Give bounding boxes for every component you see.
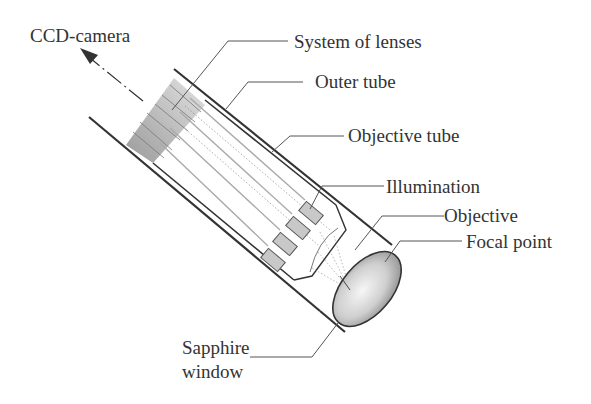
label-sapphire-window-line2: window [182,362,243,381]
probe-drawing [0,0,591,404]
label-illumination: Illumination [386,177,480,196]
label-sapphire-window-line1: Sapphire [182,338,250,357]
label-objective-tube: Objective tube [348,126,459,145]
label-outer-tube: Outer tube [315,72,396,91]
label-system-of-lenses: System of lenses [294,32,422,51]
diagram-canvas: CCD-camera System of lenses Outer tube O… [0,0,591,404]
illumination-elements [261,201,324,271]
label-focal-point: Focal point [466,232,552,251]
ccd-arrow [80,48,143,101]
label-objective: Objective [444,206,518,225]
label-ccd-camera: CCD-camera [30,26,130,45]
